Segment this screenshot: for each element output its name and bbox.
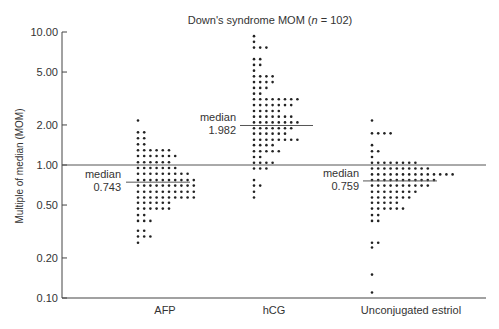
data-point: [143, 179, 146, 182]
data-point: [402, 207, 405, 210]
data-point: [162, 167, 165, 170]
data-point: [253, 115, 256, 118]
data-point: [402, 190, 405, 193]
data-point: [371, 184, 374, 187]
data-point: [402, 196, 405, 199]
data-point: [137, 161, 140, 164]
data-point: [290, 127, 293, 130]
data-point: [155, 196, 158, 199]
data-point: [265, 138, 268, 141]
data-point: [143, 235, 146, 238]
data-point: [253, 41, 256, 44]
data-point: [149, 149, 152, 152]
data-point: [259, 75, 262, 78]
data-point: [143, 172, 146, 175]
data-point: [174, 167, 177, 170]
data-point: [143, 207, 146, 210]
data-point: [396, 190, 399, 193]
data-point: [396, 201, 399, 204]
data-point: [162, 184, 165, 187]
data-point: [253, 69, 256, 72]
data-point: [155, 172, 158, 175]
data-point: [265, 150, 268, 153]
data-point: [137, 190, 140, 193]
data-point: [383, 196, 386, 199]
data-point: [253, 144, 256, 147]
data-point: [265, 75, 268, 78]
series-unconjugated-estriol: median0.759: [323, 119, 454, 294]
data-point: [408, 167, 411, 170]
data-point: [296, 121, 299, 124]
data-point: [396, 184, 399, 187]
data-point: [290, 121, 293, 124]
data-point: [143, 196, 146, 199]
data-point: [180, 184, 183, 187]
data-point: [271, 98, 274, 101]
data-point: [186, 184, 189, 187]
y-tick-label: 2.00: [37, 119, 58, 131]
data-point: [168, 161, 171, 164]
data-point: [253, 184, 256, 187]
data-point: [149, 184, 152, 187]
data-point: [383, 167, 386, 170]
data-point: [259, 98, 262, 101]
data-point: [168, 155, 171, 158]
data-point: [149, 190, 152, 193]
data-point: [186, 172, 189, 175]
chart-title: Down's syndrome MOM (n = 102): [188, 14, 352, 26]
data-point: [155, 207, 158, 210]
data-point: [162, 155, 165, 158]
data-point: [253, 167, 256, 170]
data-point: [253, 132, 256, 135]
y-tick-label: 0.50: [37, 199, 58, 211]
data-point: [137, 184, 140, 187]
data-point: [265, 132, 268, 135]
data-point: [389, 184, 392, 187]
data-point: [377, 132, 380, 135]
data-point: [143, 161, 146, 164]
data-point: [389, 201, 392, 204]
data-point: [174, 172, 177, 175]
data-point: [420, 167, 423, 170]
series-hcg: median1.982: [200, 35, 313, 199]
data-point: [253, 64, 256, 67]
data-point: [253, 81, 256, 84]
data-point: [137, 172, 140, 175]
data-point: [284, 138, 287, 141]
data-point: [155, 201, 158, 204]
data-point: [137, 201, 140, 204]
data-point: [389, 196, 392, 199]
data-point: [253, 161, 256, 164]
data-point: [259, 64, 262, 67]
data-point: [278, 110, 281, 113]
data-point: [162, 172, 165, 175]
data-point: [383, 161, 386, 164]
data-point: [143, 201, 146, 204]
data-point: [149, 172, 152, 175]
data-point: [155, 190, 158, 193]
dot-plot-chart: Down's syndrome MOM (n = 102) Multiple o…: [0, 0, 499, 329]
data-point: [265, 144, 268, 147]
data-point: [253, 58, 256, 61]
data-point: [168, 172, 171, 175]
data-point: [174, 190, 177, 193]
data-point: [137, 230, 140, 233]
data-point: [186, 179, 189, 182]
data-point: [396, 167, 399, 170]
data-point: [162, 179, 165, 182]
data-point: [371, 273, 374, 276]
data-point: [383, 184, 386, 187]
data-point: [137, 167, 140, 170]
data-point: [278, 104, 281, 107]
data-point: [265, 81, 268, 84]
data-point: [278, 132, 281, 135]
data-point: [137, 179, 140, 182]
data-point: [259, 104, 262, 107]
data-point: [253, 35, 256, 38]
data-point: [155, 155, 158, 158]
data-point: [259, 132, 262, 135]
data-point: [137, 155, 140, 158]
data-point: [253, 196, 256, 199]
data-point: [149, 161, 152, 164]
data-point: [149, 207, 152, 210]
